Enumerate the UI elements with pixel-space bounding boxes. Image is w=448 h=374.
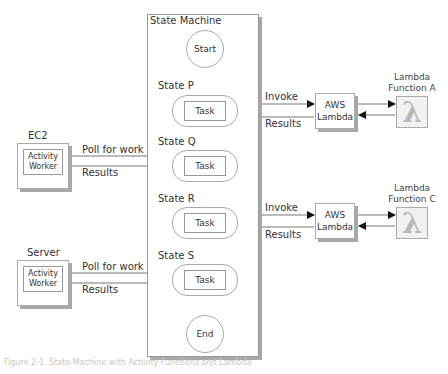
task-label: Task <box>195 275 214 285</box>
task-label: Task <box>195 161 214 171</box>
activity-worker-label: Activity Worker <box>24 152 62 172</box>
poll-label-ec2: Poll for work <box>82 144 144 155</box>
state-q-task: Task <box>184 156 226 176</box>
invoke-label-a: Invoke <box>265 91 298 102</box>
results-label-server: Results <box>82 284 118 295</box>
aws-lambda-label: AWS Lambda <box>316 209 354 233</box>
task-label: Task <box>195 106 214 116</box>
state-machine-title: State Machine <box>150 15 222 26</box>
results-label-c: Results <box>265 229 301 240</box>
start-label: Start <box>194 44 216 54</box>
end-node: End <box>186 315 224 353</box>
state-q-label: State Q <box>158 136 196 147</box>
activity-worker-label: Activity Worker <box>24 269 62 289</box>
server-host-label: Server <box>27 247 60 258</box>
start-node: Start <box>186 30 224 68</box>
state-p-task: Task <box>184 101 226 121</box>
invoke-label-c: Invoke <box>265 202 298 213</box>
lambda-function-a-label: Lambda Function A <box>382 72 442 94</box>
aws-lambda-label: AWS Lambda <box>316 99 354 123</box>
server-activity-worker: Activity Worker <box>23 266 63 292</box>
results-label-ec2: Results <box>82 167 118 178</box>
task-label: Task <box>195 218 214 228</box>
lambda-function-c-label: Lambda Function C <box>382 183 442 205</box>
results-label-a: Results <box>265 118 301 129</box>
ec2-activity-worker: Activity Worker <box>23 149 63 175</box>
aws-lambda-service-a: AWS Lambda <box>315 93 355 129</box>
end-label: End <box>196 329 213 339</box>
state-p-label: State P <box>158 80 194 91</box>
poll-label-server: Poll for work <box>82 261 144 272</box>
aws-lambda-service-c: AWS Lambda <box>315 203 355 239</box>
lambda-icon: λ <box>396 207 428 239</box>
ec2-host-label: EC2 <box>28 130 48 141</box>
state-s-label: State S <box>158 250 194 261</box>
state-s-task: Task <box>184 270 226 290</box>
state-r-label: State R <box>158 193 195 204</box>
lambda-icon: λ <box>396 96 428 128</box>
figure-caption: Figure 2-1. State Machine with Activity … <box>4 358 251 367</box>
state-r-task: Task <box>184 213 226 233</box>
